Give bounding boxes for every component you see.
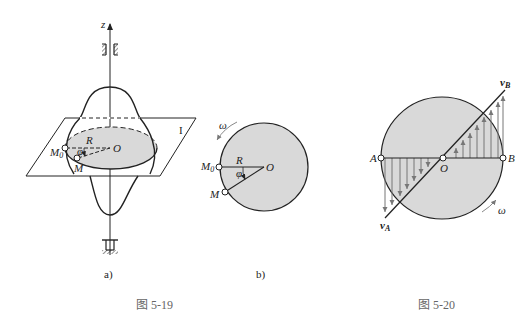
figure-5-20-caption: 图 5-20 [418, 298, 455, 312]
point-O [440, 155, 446, 161]
figure-canvas: z I R O φ M [0, 0, 531, 325]
point-M [222, 189, 228, 195]
center-label: O [266, 161, 274, 173]
radius-label: R [235, 154, 243, 166]
point-M0-label: M0 [49, 146, 63, 160]
figure-5-19-caption: 图 5-19 [136, 298, 173, 312]
center-label: O [440, 162, 448, 174]
plane-label: I [179, 124, 183, 136]
center-label: O [113, 142, 121, 154]
figure-5-19b: ω R O φ M0 M b) [200, 119, 308, 281]
velocity-A-label: vA [380, 219, 391, 233]
radius-label: R [85, 134, 93, 146]
point-M0-label: M0 [200, 160, 214, 174]
figure-5-19a: z I R O φ M [26, 18, 196, 281]
velocity-B-label: vB [500, 76, 511, 90]
point-B [500, 155, 506, 161]
angle-label: φ [77, 145, 83, 157]
point-A [378, 155, 384, 161]
figure-5-20: A O B vA vB ω [369, 76, 515, 233]
z-axis-label: z [100, 18, 106, 30]
subfig-b-label: b) [256, 268, 266, 281]
point-A-label: A [369, 152, 377, 164]
omega-label: ω [219, 119, 227, 131]
point-M0 [216, 164, 222, 170]
omega-label: ω [498, 204, 506, 216]
angle-label: φ [236, 167, 242, 179]
body-lower-outline [90, 176, 138, 215]
point-M-label: M [73, 162, 84, 174]
point-B-label: B [508, 152, 515, 164]
subfig-a-label: a) [104, 268, 113, 281]
point-M-label: M [209, 188, 220, 200]
